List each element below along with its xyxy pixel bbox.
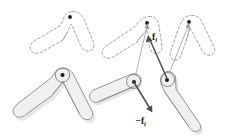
joint-marker-dashed-left-panel: [68, 15, 72, 19]
right-panel: fi −fi: [89, 15, 214, 134]
left-panel: [13, 11, 95, 123]
force-negative-subscript: i: [144, 120, 146, 127]
dashed-chevron-body-right: [170, 15, 215, 60]
solid-link-body-left: [89, 74, 142, 105]
dashed-chevron-outline: [30, 11, 94, 53]
diagram-canvas: fi −fi: [0, 0, 227, 136]
dashed-chevron-right-outline: [170, 15, 215, 60]
solid-chevron-body: [13, 68, 95, 123]
force-positive-subscript: i: [155, 36, 157, 43]
force-vector-negative-label: −fi: [136, 116, 147, 127]
dashed-chevron-body: [30, 11, 94, 53]
joint-marker-solid-left-panel: [61, 73, 65, 77]
force-vector-negative: [134, 82, 153, 113]
figure-container: fi −fi: [0, 0, 227, 136]
solid-link-body-right: [161, 72, 204, 135]
